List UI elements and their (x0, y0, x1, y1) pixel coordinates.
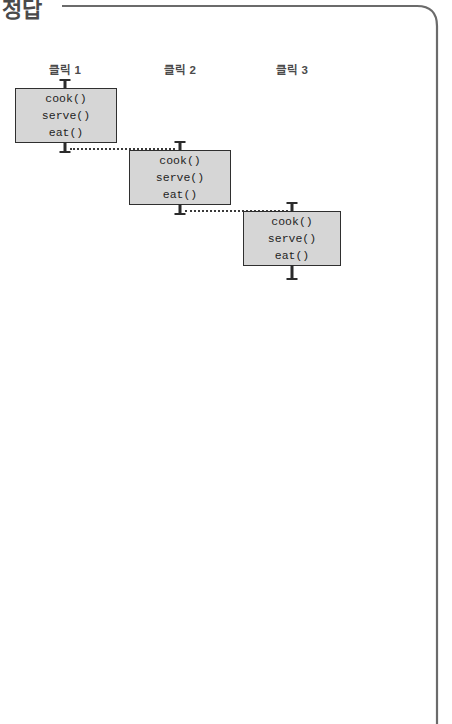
column-label-click-1: 클릭 1 (49, 61, 81, 77)
column-label-click-3: 클릭 3 (276, 61, 308, 77)
call-line-cook: cook() (159, 152, 200, 169)
call-line-eat: eat() (49, 124, 84, 141)
call-box-step-3[interactable]: cook() serve() eat() (243, 211, 341, 266)
tick-stem-icon (64, 142, 66, 151)
tick-bottom-step-3 (287, 265, 298, 280)
column-label-click-2: 클릭 2 (164, 61, 196, 77)
call-line-cook: cook() (45, 90, 86, 107)
call-box-step-2[interactable]: cook() serve() eat() (129, 150, 231, 205)
call-line-serve: serve() (42, 107, 90, 124)
call-line-cook: cook() (271, 213, 312, 230)
tick-stem-icon (179, 204, 181, 213)
call-line-serve: serve() (268, 230, 316, 247)
tick-bottom-step-1 (60, 142, 71, 153)
tick-stem-icon (291, 265, 293, 278)
tick-bottom-step-2 (175, 204, 186, 215)
call-box-step-1[interactable]: cook() serve() eat() (15, 88, 117, 143)
sequence-diagram: 클릭 1 클릭 2 클릭 3 cook() serve() eat() cook… (0, 0, 452, 724)
call-line-eat: eat() (163, 186, 198, 203)
call-line-eat: eat() (275, 247, 310, 264)
call-line-serve: serve() (156, 169, 204, 186)
